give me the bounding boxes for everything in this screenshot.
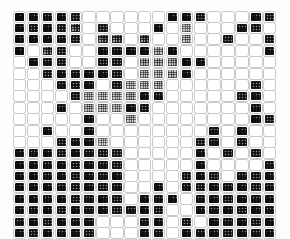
cell-fill [140,58,149,66]
cell-fill [29,24,38,32]
cell-fill [126,13,135,21]
cell-fill [57,127,66,135]
cell-fill [196,35,205,43]
cell-fill [168,127,177,135]
cell-frame [28,34,39,44]
grid-cell [82,114,96,125]
cell-frame [139,217,150,227]
grid-cell [13,79,27,90]
cell-fill [251,81,260,89]
cell-fill [209,115,218,123]
cell-fill [126,104,135,112]
cell-frame [111,160,122,170]
cell-fill [168,218,177,226]
cell-frame [222,171,233,181]
cell-frame [264,69,275,79]
grid-cell [110,114,124,125]
grid-cell [124,68,138,79]
grid-cell [69,227,83,238]
cell-frame [250,137,261,147]
cell-frame [14,126,25,136]
grid-cell [194,91,208,102]
cell-fill [43,195,52,203]
grid-cell [207,227,221,238]
grid-cell [55,227,69,238]
cell-fill [237,92,246,100]
cell-frame [70,160,81,170]
cell-fill [251,229,260,237]
cell-frame [167,217,178,227]
cell-frame [83,34,94,44]
cell-fill [168,81,177,89]
grid-cell [124,102,138,113]
grid-cell [138,193,152,204]
grid-cell [96,91,110,102]
grid-cell [166,22,180,33]
grid-cell [96,34,110,45]
cell-fill [140,229,149,237]
grid-cell [41,34,55,45]
grid-cell [235,205,249,216]
grid-cell [55,102,69,113]
cell-frame [56,182,67,192]
grid-cell [27,11,41,22]
grid-cell [124,91,138,102]
grid-cell [124,159,138,170]
cell-frame [264,228,275,238]
grid-cell [41,68,55,79]
grid-cell [27,45,41,56]
grid-cell [55,205,69,216]
cell-fill [265,70,274,78]
cell-fill [251,115,260,123]
cell-fill [112,70,121,78]
grid-cell [55,11,69,22]
grid-cell [221,227,235,238]
cell-fill [15,92,24,100]
grid-cell [221,22,235,33]
cell-frame [56,160,67,170]
cell-frame [42,23,53,33]
cell-fill [43,58,52,66]
cell-frame [250,57,261,67]
cell-frame [97,194,108,204]
cell-frame [42,57,53,67]
grid-cell [96,57,110,68]
cell-fill [168,70,177,78]
cell-fill [154,183,163,191]
cell-fill [168,104,177,112]
grid-cell [180,193,194,204]
cell-frame [167,228,178,238]
cell-fill [57,81,66,89]
cell-fill [237,58,246,66]
cell-frame [208,217,219,227]
cell-frame [250,217,261,227]
grid-cell [152,79,166,90]
cell-frame [14,148,25,158]
cell-fill [168,47,177,55]
cell-frame [264,12,275,22]
cell-fill [84,104,93,112]
cell-frame [153,57,164,67]
cell-fill [168,183,177,191]
cell-frame [42,137,53,147]
cell-frame [236,80,247,90]
grid-cell [235,159,249,170]
cell-frame [28,137,39,147]
cell-frame [42,34,53,44]
cell-frame [111,137,122,147]
cell-fill [71,70,80,78]
grid-cell [221,68,235,79]
cell-fill [112,149,121,157]
cell-frame [83,103,94,113]
grid-cell [124,205,138,216]
cell-fill [57,70,66,78]
cell-frame [195,12,206,22]
grid-cell [166,148,180,159]
grid-cell [207,34,221,45]
cell-frame [208,171,219,181]
cell-frame [181,126,192,136]
cell-frame [70,171,81,181]
cell-fill [57,115,66,123]
grid-cell [55,182,69,193]
grid-cell [27,91,41,102]
